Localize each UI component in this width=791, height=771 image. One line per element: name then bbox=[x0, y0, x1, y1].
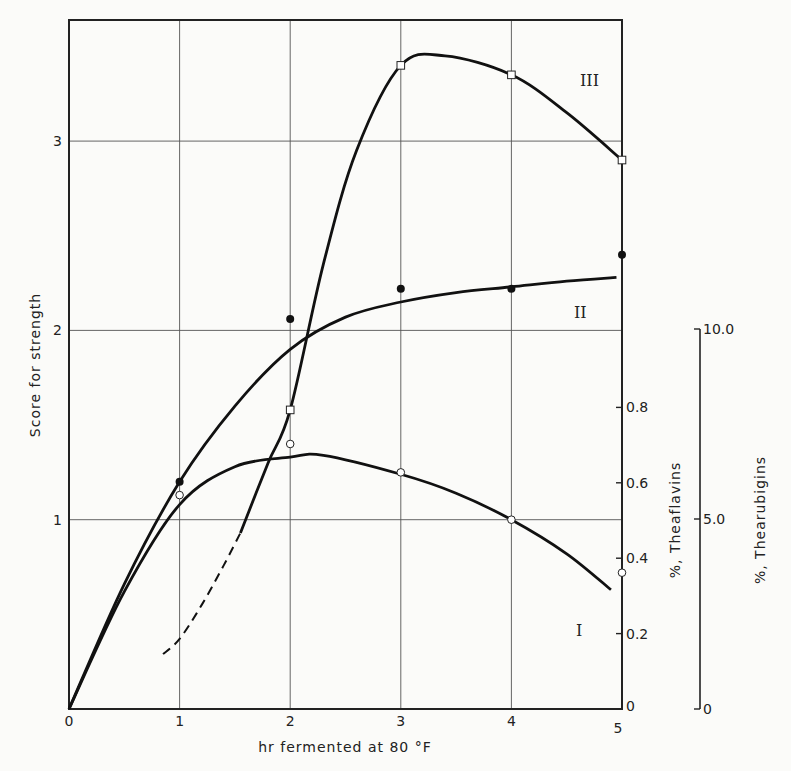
tea-fermentation-chart: 05.010.000.20.40.60.8012345123 hr fermen… bbox=[0, 0, 791, 771]
curve-label-III: III bbox=[580, 71, 599, 90]
x-tick-label: 2 bbox=[286, 713, 295, 729]
thearubigins-tick-label: 5.0 bbox=[703, 511, 725, 527]
curve-III bbox=[240, 54, 622, 533]
gridlines bbox=[69, 20, 622, 709]
curve-label-II: II bbox=[574, 303, 587, 322]
tick-labels: 05.010.000.20.40.60.8012345123 bbox=[53, 133, 734, 736]
y-tick-label: 3 bbox=[53, 133, 62, 149]
open-circle-marker bbox=[397, 469, 405, 477]
thearubigins-tick-label: 10.0 bbox=[703, 321, 734, 337]
filled-circle-marker bbox=[618, 251, 626, 259]
open-circle-marker bbox=[618, 569, 626, 577]
theaflavins-tick-label: 0.2 bbox=[626, 626, 648, 642]
open-circle-marker bbox=[508, 516, 516, 524]
x-axis-title: hr fermented at 80 °F bbox=[258, 739, 432, 755]
filled-circle-marker bbox=[397, 285, 405, 293]
plot-border bbox=[69, 20, 622, 709]
theaflavins-tick-label: 0 bbox=[626, 698, 635, 714]
theaflavins-axis-title: %, Theaflavins bbox=[667, 462, 683, 579]
curves bbox=[69, 54, 622, 709]
theaflavins-tick-label: 0.4 bbox=[626, 550, 648, 566]
open-square-marker bbox=[397, 62, 405, 70]
curve-I bbox=[69, 454, 611, 709]
curve-II bbox=[69, 277, 616, 709]
open-square-marker bbox=[286, 406, 294, 414]
x-tick-label: 5 bbox=[614, 720, 623, 736]
open-circle-marker bbox=[286, 440, 294, 448]
thearubigins-tick-label: 0 bbox=[703, 701, 712, 717]
plot-frame bbox=[69, 20, 700, 709]
open-square-marker bbox=[508, 71, 516, 79]
x-tick-label: 3 bbox=[396, 713, 405, 729]
theaflavins-tick-label: 0.6 bbox=[626, 475, 648, 491]
theaflavins-tick-label: 0.8 bbox=[626, 399, 648, 415]
x-tick-label: 1 bbox=[175, 713, 184, 729]
y-axis-title: Score for strength bbox=[27, 293, 43, 437]
curve-III-dashed-extension bbox=[163, 533, 240, 654]
filled-circle-marker bbox=[176, 478, 184, 486]
y-tick-label: 2 bbox=[53, 322, 62, 338]
filled-circle-marker bbox=[507, 285, 515, 293]
filled-circle-marker bbox=[286, 315, 294, 323]
curve-label-I: I bbox=[576, 621, 582, 640]
open-circle-marker bbox=[176, 491, 184, 499]
thearubigins-axis-title: %, Thearubigins bbox=[752, 456, 768, 584]
x-tick-label: 0 bbox=[65, 713, 74, 729]
y-tick-label: 1 bbox=[53, 512, 62, 528]
x-tick-label: 4 bbox=[507, 713, 516, 729]
open-square-marker bbox=[618, 156, 626, 164]
